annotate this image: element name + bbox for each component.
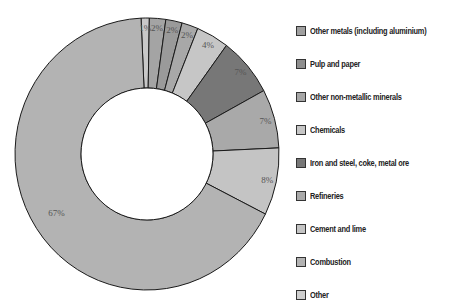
legend-swatch [296,92,306,102]
slice-label: 2% [151,23,164,33]
legend-swatch [296,26,306,36]
slice-label: 2% [181,30,194,40]
legend-label: Other metals (including aluminium) [310,25,426,36]
legend-swatch [296,125,306,135]
donut-slices [15,18,279,290]
legend-label: Chemicals [310,124,345,135]
donut-chart: 1%2%2%2%4%7%7%8%67% [0,0,300,300]
legend-label: Cement and lime [310,223,366,234]
slice-label: 67% [48,208,65,218]
legend-item-refineries: Refineries [296,179,450,212]
slice-label: 2% [166,25,179,35]
legend-label: Iron and steel, coke, metal ore [310,157,409,168]
legend-item-chemicals: Chemicals [296,113,450,146]
legend-label: Other non-metallic minerals [310,91,402,102]
legend-label: Pulp and paper [310,58,360,69]
donut-hole [81,88,213,220]
slice-label: 4% [202,40,215,50]
legend-item-iron-steel: Iron and steel, coke, metal ore [296,146,450,179]
legend-item-other-metals: Other metals (including aluminium) [296,14,450,47]
legend-label: Combustion [310,256,351,267]
slice-label: 7% [259,116,272,126]
legend-item-cement-lime: Cement and lime [296,212,450,245]
legend-item-pulp-paper: Pulp and paper [296,47,450,80]
slice-label: 7% [235,67,248,77]
chart-legend: Other metals (including aluminium) Pulp … [296,14,450,300]
legend-swatch [296,257,306,267]
legend-swatch [296,224,306,234]
legend-item-combustion: Combustion [296,245,450,278]
legend-label: Refineries [310,190,343,201]
legend-label: Other [310,289,329,300]
legend-swatch [296,158,306,168]
legend-swatch [296,59,306,69]
legend-swatch [296,191,306,201]
legend-swatch [296,290,306,300]
legend-item-non-metallic-minerals: Other non-metallic minerals [296,80,450,113]
legend-item-other: Other [296,278,450,300]
slice-label: 8% [261,175,274,185]
